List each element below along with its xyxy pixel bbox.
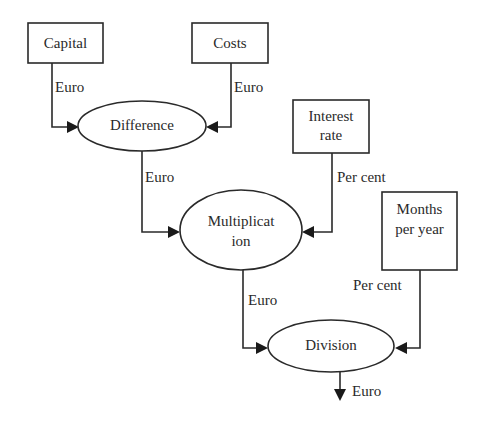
edge-interest-multiplication: Per cent <box>302 153 387 238</box>
arrowhead-icon <box>67 121 79 133</box>
edge-unit-label: Per cent <box>353 277 403 293</box>
division-node: Division <box>268 320 394 372</box>
multiplication-label-line1: Multiplicat <box>208 213 275 229</box>
edge-unit-label: Euro <box>248 292 277 308</box>
edge-unit-label: Euro <box>352 383 381 399</box>
interest-rate-node: Interest rate <box>293 100 369 153</box>
interest-rate-label-line2: rate <box>320 127 343 143</box>
arrowhead-icon <box>302 226 314 238</box>
months-per-year-label-line1: Months <box>397 201 443 217</box>
arrowhead-icon <box>334 389 346 401</box>
division-label: Division <box>305 337 357 353</box>
months-per-year-label-line2: per year <box>395 221 444 237</box>
edge-costs-difference: Euro <box>206 63 263 133</box>
multiplication-label-line2: ion <box>231 233 251 249</box>
arrowhead-icon <box>256 342 268 354</box>
edge-difference-multiplication: Euro <box>142 151 180 238</box>
arrowhead-icon <box>206 121 218 133</box>
interest-rate-label-line1: Interest <box>309 108 355 124</box>
difference-node: Difference <box>78 101 206 151</box>
capital-node: Capital <box>28 23 103 63</box>
flow-diagram: Capital Costs Euro Euro Difference Inter… <box>0 0 486 422</box>
capital-label: Capital <box>44 35 87 51</box>
arrowhead-icon <box>168 226 180 238</box>
months-per-year-node: Months per year <box>382 192 457 270</box>
costs-node: Costs <box>192 23 268 63</box>
edge-unit-label: Euro <box>234 79 263 95</box>
edge-unit-label: Euro <box>145 169 174 185</box>
difference-label: Difference <box>110 117 174 133</box>
costs-label: Costs <box>213 35 247 51</box>
edge-unit-label: Euro <box>55 79 84 95</box>
edge-unit-label: Per cent <box>337 169 387 185</box>
multiplication-node: Multiplicat ion <box>180 190 302 270</box>
arrowhead-icon <box>395 342 407 354</box>
edge-division-output: Euro <box>334 372 381 401</box>
